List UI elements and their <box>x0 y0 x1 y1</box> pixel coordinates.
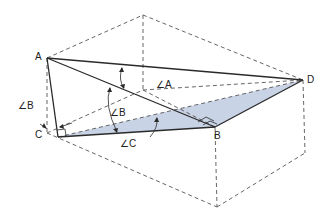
point-label-a: A <box>35 52 42 62</box>
point-label-c: C <box>35 130 42 140</box>
angle-label-b-upper: ∠B <box>110 108 126 118</box>
angle-label-b-left: ∠B <box>18 101 34 111</box>
diagram-figure: A D B C ∠A ∠B ∠B ∠C <box>0 0 321 220</box>
point-label-b: B <box>214 131 221 141</box>
point-label-d: D <box>307 75 314 85</box>
angle-label-a: ∠A <box>156 80 172 90</box>
angle-label-c: ∠C <box>120 139 136 149</box>
diagram-svg <box>0 0 321 220</box>
